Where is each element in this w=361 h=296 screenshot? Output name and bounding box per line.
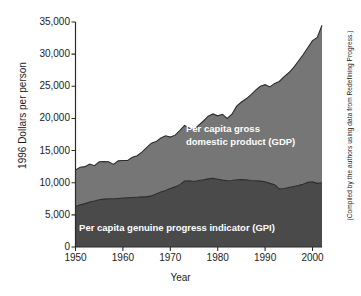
- gpi-area-label: Per capita genuine progress indicator (G…: [79, 222, 275, 233]
- gdp-area-band: [76, 25, 323, 206]
- gdp-area-label-line1: Per capita gross: [186, 123, 260, 134]
- stacked-area-plot: Per capita gross domestic product (GDP) …: [0, 0, 361, 296]
- gdp-area-label-line2: domestic product (GDP): [186, 136, 295, 147]
- chart-figure: 1996 Dollars per person 05,00010,00015,0…: [0, 0, 361, 296]
